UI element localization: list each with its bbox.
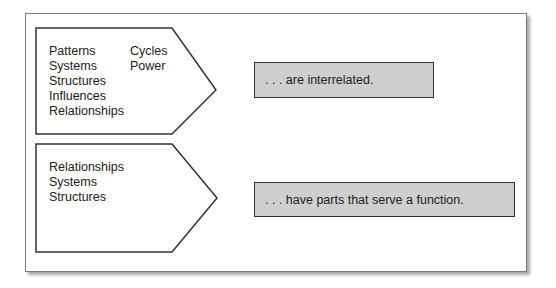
row2-terms-col1: Relationships Systems Structures (49, 160, 124, 205)
result-text-2: . . . have parts that serve a function. (265, 193, 464, 207)
term: Structures (49, 190, 124, 205)
term: Relationships (49, 160, 124, 175)
term: Cycles (130, 44, 168, 59)
term: Patterns (49, 44, 124, 59)
term: Power (130, 59, 168, 74)
row1-terms-col2: Cycles Power (130, 44, 168, 74)
result-box-1: . . . are interrelated. (254, 62, 434, 98)
term: Relationships (49, 104, 124, 119)
term: Systems (49, 59, 124, 74)
term: Systems (49, 175, 124, 190)
term: Influences (49, 89, 124, 104)
row1-terms-col1: Patterns Systems Structures Influences R… (49, 44, 124, 119)
result-box-2: . . . have parts that serve a function. (254, 182, 515, 217)
term: Structures (49, 74, 124, 89)
result-text-1: . . . are interrelated. (265, 73, 373, 87)
